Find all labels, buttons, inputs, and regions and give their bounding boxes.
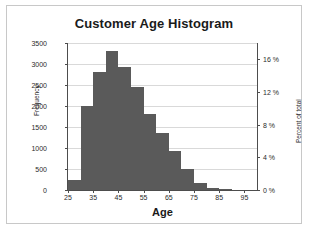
- y2-tick-label: 8 %: [263, 121, 275, 128]
- x-tick-label: 55: [140, 194, 148, 201]
- histogram-bar: [144, 114, 157, 190]
- histogram-bar: [81, 106, 94, 190]
- y2-tick-mark: [257, 125, 260, 126]
- histogram-bar: [68, 180, 81, 191]
- x-tick-mark: [118, 190, 119, 193]
- x-tick-label: 45: [114, 194, 122, 201]
- y-tick-label: 3000: [31, 61, 47, 68]
- y-tick-mark: [65, 127, 68, 128]
- plot-area: [68, 43, 257, 190]
- x-tick-mark: [219, 190, 220, 193]
- histogram-bar: [169, 151, 182, 190]
- histogram-bar: [156, 133, 169, 190]
- y-tick-label: 0: [43, 187, 47, 194]
- y-tick-label: 1000: [31, 145, 47, 152]
- x-tick-label: 35: [89, 194, 97, 201]
- chart-title: Customer Age Histogram: [7, 16, 301, 31]
- x-tick-label: 75: [190, 194, 198, 201]
- y-tick-mark: [65, 169, 68, 170]
- histogram-bar: [181, 169, 194, 190]
- y2-tick-mark: [257, 92, 260, 93]
- histogram-bar: [118, 67, 131, 190]
- x-tick-label: 25: [64, 194, 72, 201]
- gridline: [68, 64, 257, 65]
- y2-tick-mark: [257, 157, 260, 158]
- x-tick-mark: [93, 190, 94, 193]
- y-tick-label: 2000: [31, 103, 47, 110]
- y-tick-label: 2500: [31, 82, 47, 89]
- histogram-bar: [194, 183, 207, 190]
- histogram-bar: [106, 51, 119, 190]
- x-tick-label: 85: [215, 194, 223, 201]
- x-tick-mark: [169, 190, 170, 193]
- y-tick-mark: [65, 85, 68, 86]
- x-tick-label: 95: [240, 194, 248, 201]
- y-tick-label: 1500: [31, 124, 47, 131]
- y-tick-mark: [65, 106, 68, 107]
- y2-tick-label: 16 %: [263, 56, 279, 63]
- x-tick-mark: [68, 190, 69, 193]
- gridline: [68, 43, 257, 44]
- y-tick-label: 3500: [31, 40, 47, 47]
- y2-tick-label: 0 %: [263, 187, 275, 194]
- y-tick-label: 500: [35, 166, 47, 173]
- histogram-bar: [93, 72, 106, 190]
- y2-tick-label: 4 %: [263, 154, 275, 161]
- bottom-axis-line: [68, 190, 257, 191]
- y2-tick-mark: [257, 190, 260, 191]
- y-tick-mark: [65, 64, 68, 65]
- x-tick-label: 65: [165, 194, 173, 201]
- histogram-bar: [131, 87, 144, 190]
- left-axis-line: [67, 43, 68, 190]
- y-axis-label-frequency: Frequency: [33, 85, 40, 116]
- x-axis-label-age: Age: [68, 206, 257, 218]
- x-tick-mark: [194, 190, 195, 193]
- y-tick-mark: [65, 148, 68, 149]
- chart-frame: Customer Age Histogram Frequency Percent…: [6, 5, 302, 224]
- y2-tick-label: 12 %: [263, 89, 279, 96]
- x-tick-mark: [244, 190, 245, 193]
- right-axis-line: [257, 43, 258, 190]
- y-tick-mark: [65, 43, 68, 44]
- y2-axis-label-percent: Percent of total: [295, 99, 302, 143]
- y2-tick-mark: [257, 59, 260, 60]
- x-tick-mark: [144, 190, 145, 193]
